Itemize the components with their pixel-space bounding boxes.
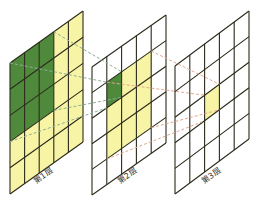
layer-1-grid (10, 11, 83, 194)
layer-3-grid (175, 11, 249, 194)
receptive-field-diagram: 第1层 第2层 第3层 (0, 0, 262, 205)
